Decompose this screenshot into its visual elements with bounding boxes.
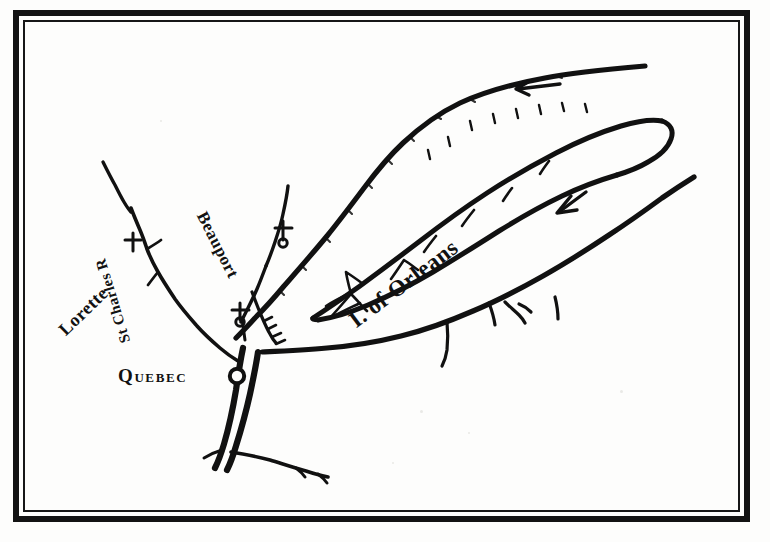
label-quebec: Quebec: [118, 365, 187, 387]
south-shore-coastline: [262, 177, 694, 352]
island-west-tip: [312, 318, 318, 320]
north-channel-current-arrow: [516, 82, 560, 95]
st-charles-tributary-a: [147, 240, 161, 249]
beauport-river: [266, 186, 288, 266]
paper-speck: [160, 120, 162, 122]
south-bank-tributary-4: [519, 304, 531, 312]
st-charles-upper-branch: [103, 162, 131, 212]
lorette-cross-icon: [125, 233, 141, 251]
island-east-tip: [617, 121, 672, 175]
south-bank-tributary-1: [442, 322, 448, 366]
north-shore-coastline: [236, 66, 645, 338]
paper-speck: [420, 410, 423, 413]
south-bank-tributary-2: [489, 303, 495, 325]
map-page: Quebec Lorette St Charles R Beauport I. …: [0, 0, 770, 542]
island-north-coast: [313, 120, 662, 318]
map-drawing: [0, 0, 770, 542]
narrows-southeast-tributary: [231, 452, 328, 477]
paper-speck: [620, 390, 623, 393]
quebec-city-dot-icon: [230, 369, 244, 383]
paper-speck: [468, 432, 470, 434]
south-bank-tributary-5: [555, 297, 558, 319]
st-charles-tributary-b: [148, 272, 158, 285]
paper-speck: [392, 462, 394, 464]
